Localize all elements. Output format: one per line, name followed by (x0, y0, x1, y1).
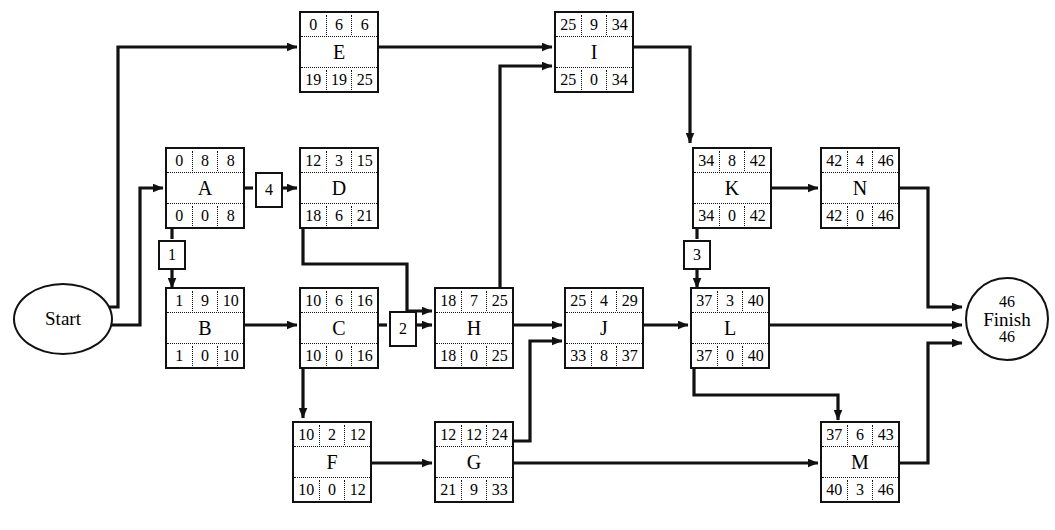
node-g-bottom-row-cell-left: 21 (436, 480, 461, 500)
activity-node-i[interactable]: 25934I25034 (554, 11, 634, 93)
node-f-bottom-row: 10012 (294, 477, 370, 501)
node-h-top-row: 18725 (436, 289, 512, 313)
node-a-bottom-row: 008 (167, 203, 243, 227)
node-i-bottom-row-cell-mid: 0 (581, 70, 607, 90)
edge-m-finish (900, 343, 962, 463)
finish-node[interactable]: 46 Finish 46 (965, 277, 1049, 361)
node-i-bottom-row-cell-left: 25 (556, 70, 581, 90)
node-j-top-row-cell-mid: 4 (591, 291, 617, 311)
node-k-bottom-row: 34042 (694, 203, 770, 227)
node-f-bottom-row-cell-mid: 0 (319, 480, 345, 500)
lag-box-c-h[interactable]: 2 (389, 311, 417, 347)
node-j-bottom-row-cell-mid: 8 (591, 346, 617, 366)
node-f-top-row-cell-mid: 2 (319, 425, 345, 445)
node-l-bottom-row: 37040 (692, 343, 768, 367)
edge-layer (93, 47, 962, 463)
lag-box-a-d[interactable]: 4 (255, 172, 283, 208)
node-g-top-row-cell-right: 24 (486, 425, 512, 445)
activity-node-n[interactable]: 42446N42046 (820, 147, 900, 229)
node-n-bottom-row-cell-left: 42 (822, 206, 847, 226)
node-m-bottom-row-cell-mid: 3 (847, 480, 873, 500)
node-f-label: F (294, 447, 370, 477)
node-a-bottom-row-cell-mid: 0 (192, 206, 218, 226)
node-h-label: H (436, 313, 512, 343)
node-a-top-row: 088 (167, 149, 243, 173)
node-m-bottom-row-cell-right: 46 (872, 480, 898, 500)
node-j-bottom-row: 33837 (566, 343, 642, 367)
activity-node-b[interactable]: 1910B1010 (165, 287, 245, 369)
node-i-top-row-cell-right: 34 (606, 15, 632, 35)
lag-box-a-b[interactable]: 1 (158, 240, 186, 270)
activity-node-c[interactable]: 10616C10016 (299, 287, 379, 369)
node-k-label: K (694, 173, 770, 203)
node-a-top-row-cell-mid: 8 (192, 151, 218, 171)
lag-K-L-value: 3 (693, 246, 701, 264)
node-l-top-row-cell-right: 40 (742, 291, 768, 311)
node-g-top-row-cell-mid: 12 (461, 425, 487, 445)
node-d-bottom-row-cell-mid: 6 (326, 206, 352, 226)
start-node[interactable]: Start (13, 283, 113, 355)
start-node-label: Start (45, 308, 81, 330)
node-h-bottom-row: 18025 (436, 343, 512, 367)
node-j-bottom-row-cell-left: 33 (566, 346, 591, 366)
lag-box-k-l[interactable]: 3 (683, 240, 711, 270)
activity-node-l[interactable]: 37340L37040 (690, 287, 770, 369)
node-i-top-row-cell-left: 25 (556, 15, 581, 35)
node-d-top-row-cell-mid: 3 (326, 151, 352, 171)
node-i-label: I (556, 37, 632, 67)
node-g-bottom-row-cell-right: 33 (486, 480, 512, 500)
node-i-top-row-cell-mid: 9 (581, 15, 607, 35)
node-e-bottom-row-cell-mid: 19 (326, 70, 352, 90)
lag-A-B-value: 1 (168, 246, 176, 264)
node-m-top-row-cell-mid: 6 (847, 425, 873, 445)
activity-node-f[interactable]: 10212F10012 (292, 421, 372, 503)
node-e-bottom-row-cell-left: 19 (301, 70, 326, 90)
node-d-top-row-cell-right: 15 (351, 151, 377, 171)
node-c-top-row-cell-left: 10 (301, 291, 326, 311)
node-a-top-row-cell-left: 0 (167, 151, 192, 171)
node-k-top-row-cell-right: 42 (744, 151, 770, 171)
activity-node-k[interactable]: 34842K34042 (692, 147, 772, 229)
node-g-bottom-row: 21933 (436, 477, 512, 501)
activity-node-a[interactable]: 088A008 (165, 147, 245, 229)
node-j-bottom-row-cell-right: 37 (616, 346, 642, 366)
node-b-top-row-cell-right: 10 (217, 291, 243, 311)
activity-node-e[interactable]: 066E191925 (299, 11, 379, 93)
activity-node-m[interactable]: 37643M40346 (820, 421, 900, 503)
node-f-top-row: 10212 (294, 423, 370, 447)
node-c-bottom-row: 10016 (301, 343, 377, 367)
activity-node-h[interactable]: 18725H18025 (434, 287, 514, 369)
node-k-bottom-row-cell-left: 34 (694, 206, 719, 226)
node-c-bottom-row-cell-right: 16 (351, 346, 377, 366)
node-n-label: N (822, 173, 898, 203)
node-c-bottom-row-cell-left: 10 (301, 346, 326, 366)
activity-node-g[interactable]: 121224G21933 (434, 421, 514, 503)
activity-node-j[interactable]: 25429J33837 (564, 287, 644, 369)
node-e-top-row-cell-mid: 6 (326, 15, 352, 35)
node-b-bottom-row: 1010 (167, 343, 243, 367)
node-b-top-row-cell-left: 1 (167, 291, 192, 311)
node-f-bottom-row-cell-right: 12 (344, 480, 370, 500)
node-f-bottom-row-cell-left: 10 (294, 480, 319, 500)
node-j-label: J (566, 313, 642, 343)
node-a-label: A (167, 173, 243, 203)
node-e-bottom-row: 191925 (301, 67, 377, 91)
network-diagram-canvas: Start 46 Finish 46 066E191925 25934I2503… (0, 0, 1055, 530)
node-a-bottom-row-cell-left: 0 (167, 206, 192, 226)
node-g-label: G (436, 447, 512, 477)
activity-node-d[interactable]: 12315D18621 (299, 147, 379, 229)
node-d-bottom-row-cell-right: 21 (351, 206, 377, 226)
node-l-top-row-cell-mid: 3 (717, 291, 743, 311)
node-b-bottom-row-cell-right: 10 (217, 346, 243, 366)
node-d-top-row-cell-left: 12 (301, 151, 326, 171)
node-g-top-row: 121224 (436, 423, 512, 447)
node-n-bottom-row: 42046 (822, 203, 898, 227)
node-m-bottom-row: 40346 (822, 477, 898, 501)
edge-g-j (508, 341, 562, 441)
node-b-bottom-row-cell-left: 1 (167, 346, 192, 366)
node-n-bottom-row-cell-right: 46 (872, 206, 898, 226)
node-h-top-row-cell-right: 25 (486, 291, 512, 311)
node-i-bottom-row-cell-right: 34 (606, 70, 632, 90)
node-m-top-row-cell-right: 43 (872, 425, 898, 445)
node-b-bottom-row-cell-mid: 0 (192, 346, 218, 366)
